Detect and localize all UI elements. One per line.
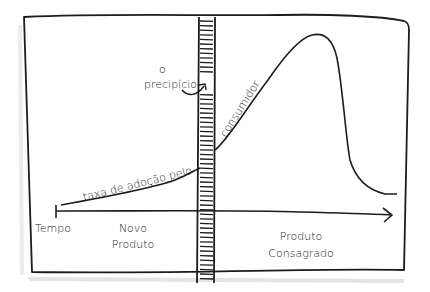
phase-right-line1: Produto: [280, 230, 322, 243]
chasm-label-o: o: [159, 63, 166, 76]
phase-left-line1: Novo: [119, 222, 147, 235]
chasm-label: precipício: [144, 78, 197, 91]
chasm-diagram: o precipício taxa de adoção pelo consumi…: [0, 0, 430, 292]
curve-label-left: taxa de adoção pelo: [82, 164, 194, 204]
curve-label-right: consumidor: [218, 78, 263, 140]
phase-left-line2: Produto: [112, 238, 154, 251]
phase-right-line2: Consagrado: [268, 247, 333, 260]
axis-label-time: Tempo: [35, 222, 71, 235]
chasm-ladder: [197, 17, 215, 283]
time-axis: [56, 205, 392, 222]
diagram-frame: [24, 15, 409, 273]
frame-shadow-left: [18, 25, 24, 275]
frame-shadow: [28, 277, 405, 283]
